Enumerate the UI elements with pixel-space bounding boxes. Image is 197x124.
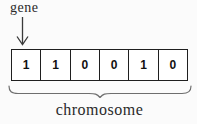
chromosome-diagram: gene 1 1 0 0 1 0 chromosome: [0, 0, 197, 124]
gene-cell-3: 0: [70, 50, 99, 80]
gene-cell-4: 0: [99, 50, 128, 80]
chromosome-cells: 1 1 0 0 1 0: [11, 49, 188, 81]
gene-cell-2: 1: [40, 50, 69, 80]
gene-cell-5: 1: [128, 50, 157, 80]
gene-cell-1: 1: [12, 50, 40, 80]
underbrace-icon: [8, 85, 192, 98]
gene-cell-6: 0: [158, 50, 187, 80]
chromosome-label: chromosome: [0, 100, 197, 119]
down-arrow-icon: [13, 16, 32, 47]
gene-label: gene: [10, 0, 38, 16]
